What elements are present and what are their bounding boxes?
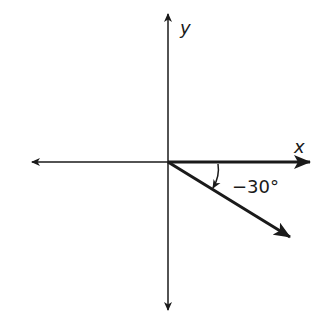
coordinate-diagram: [0, 0, 324, 317]
y-axis-label: y: [180, 17, 191, 38]
diagram-canvas: y x −30°: [0, 0, 324, 317]
x-axis-label: x: [294, 136, 305, 157]
angle-arc: [213, 164, 218, 188]
terminal-ray: [168, 162, 290, 237]
angle-label: −30°: [232, 176, 279, 197]
